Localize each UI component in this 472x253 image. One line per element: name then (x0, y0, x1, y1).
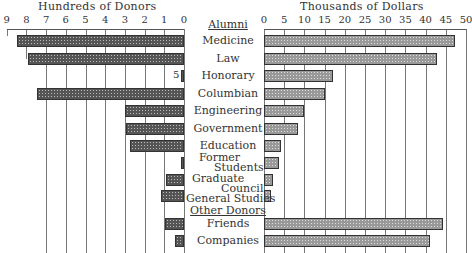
donor-bar (166, 174, 184, 186)
dollar-bar (264, 35, 455, 47)
right-tick: 45 (439, 14, 452, 25)
donor-bar (165, 218, 184, 230)
donor-bar (130, 140, 184, 152)
right-tick: 10 (298, 14, 311, 25)
category-label: Honorary (187, 69, 269, 82)
group-header-other-donors: Other Donors (187, 204, 269, 217)
left-gridline (184, 29, 185, 253)
right-axis-title: Thousands of Dollars (300, 0, 424, 13)
dollar-bar (264, 235, 430, 247)
category-label: Columbian (187, 87, 269, 100)
right-tick: 50 (460, 14, 472, 25)
dollar-bar (264, 53, 437, 65)
dollar-bar (264, 105, 304, 117)
category-label: Government (187, 122, 269, 135)
left-gridline (7, 29, 8, 36)
right-tick: 40 (419, 14, 432, 25)
category-label: Friends (187, 217, 269, 230)
dollar-bar (264, 218, 443, 230)
dollar-bar (264, 88, 325, 100)
left-tick: 9 (4, 14, 10, 25)
left-tick: 6 (63, 14, 69, 25)
left-axis-title: Hundreds of Donors (38, 0, 156, 13)
dollar-bar (264, 70, 333, 82)
category-label: Engineering (187, 104, 269, 117)
right-axis-line (264, 29, 466, 30)
donor-bar (125, 105, 184, 117)
left-tick: 8 (23, 14, 29, 25)
dollar-bar (264, 174, 273, 186)
donor-bar (126, 123, 184, 135)
left-tick: 4 (102, 14, 108, 25)
honorary-donor-count: 5 (173, 69, 179, 80)
left-tick: 2 (141, 14, 147, 25)
dollar-bar (264, 157, 279, 169)
right-gridline (466, 29, 467, 253)
left-tick: 1 (161, 14, 167, 25)
left-tick: 3 (122, 14, 128, 25)
donor-bar (17, 35, 184, 47)
donor-bar (175, 235, 184, 247)
left-axis-line (7, 29, 184, 30)
left-tick: 5 (82, 14, 88, 25)
donor-bar (181, 157, 184, 169)
right-gridline (446, 29, 447, 253)
right-tick: 35 (399, 14, 412, 25)
donor-bar (181, 70, 184, 82)
donor-bar (161, 190, 184, 202)
left-tick: 7 (43, 14, 49, 25)
right-tick: 15 (318, 14, 331, 25)
donor-bar (28, 53, 184, 65)
right-tick: 30 (379, 14, 392, 25)
category-label: Law (187, 52, 269, 65)
right-tick: 5 (281, 14, 287, 25)
right-tick: 25 (359, 14, 372, 25)
group-header-alumni: Alumni (187, 18, 269, 31)
category-label: Medicine (187, 34, 269, 47)
category-label: Companies (187, 234, 269, 247)
donor-bar (37, 88, 184, 100)
dollar-bar (264, 123, 298, 135)
right-tick: 20 (338, 14, 351, 25)
